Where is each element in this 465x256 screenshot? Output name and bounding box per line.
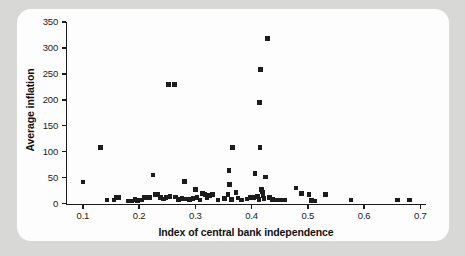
x-tick-label: 0.5 [293,210,323,221]
x-tick [363,205,364,209]
data-point [263,175,268,180]
x-tick [307,205,308,209]
data-point [198,198,203,203]
y-tick-label: 350 [32,16,58,27]
data-point [258,145,263,150]
data-point [407,198,412,203]
data-point [294,186,299,191]
y-tick-label: 0 [32,198,58,209]
x-tick [138,205,139,209]
y-tick [62,125,66,126]
data-point [166,82,171,87]
x-tick [251,205,252,209]
data-point [193,187,198,192]
data-point [349,198,354,203]
y-tick-label-wrap: 0 [30,198,58,210]
x-tick [195,205,196,209]
figure-container: 050100150200250300350 0.10.20.30.40.50.6… [0,0,465,256]
data-point [147,195,152,200]
data-point [105,198,110,203]
data-point [239,198,244,203]
x-tick [82,205,83,209]
x-tick [420,205,421,209]
x-tick-label: 0.3 [180,210,210,221]
data-point [210,192,215,197]
data-point [227,168,232,173]
data-point [282,198,287,203]
data-point [227,182,232,187]
scatter-plot: 050100150200250300350 0.10.20.30.40.50.6… [0,0,465,256]
y-tick [62,99,66,100]
y-tick [62,47,66,48]
x-tick-label: 0.7 [405,210,435,221]
data-point [168,194,173,199]
x-axis-line [66,204,426,205]
x-axis-label: Index of central bank independence [66,226,426,238]
x-tick-label: 0.1 [68,210,98,221]
y-axis-line [66,22,67,205]
y-tick [62,151,66,152]
data-point [182,179,187,184]
x-tick-label: 0.4 [237,210,267,221]
data-point [234,190,239,195]
data-point [299,191,304,196]
data-point [257,100,262,105]
y-tick [62,177,66,178]
y-axis-label: Average inflation [24,35,36,185]
data-point [116,195,121,200]
data-point [265,36,270,41]
data-point [81,180,86,185]
y-tick [62,203,66,204]
data-point [172,82,177,87]
data-point [229,197,234,202]
data-point [216,198,221,203]
data-point [98,145,103,150]
data-point [151,173,156,178]
data-point [253,171,258,176]
data-point [312,199,317,204]
y-tick-label-wrap: 350 [30,16,58,28]
data-point [395,198,400,203]
data-point [257,197,262,202]
data-point [262,196,267,201]
x-tick-label: 0.6 [349,210,379,221]
data-point [307,192,312,197]
data-point [230,145,235,150]
y-tick [62,73,66,74]
y-tick [62,21,66,22]
x-tick-label: 0.2 [124,210,154,221]
data-point [258,67,263,72]
data-point [323,192,328,197]
